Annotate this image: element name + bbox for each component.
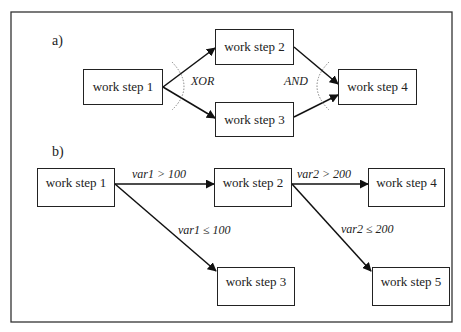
node-b2[interactable]: work step 2 [214, 168, 292, 207]
node-b3[interactable]: work step 3 [217, 267, 295, 306]
condition-b1-b3: var1 ≤ 100 [178, 223, 231, 238]
node-a2[interactable]: work step 2 [215, 29, 294, 65]
node-a3[interactable]: work step 3 [215, 102, 294, 137]
condition-b2-b5: var2 ≤ 200 [341, 222, 394, 237]
node-b4[interactable]: work step 4 [368, 168, 445, 207]
xor-label: XOR [191, 74, 214, 89]
edge-a3-a4 [294, 95, 338, 117]
xor-arc-icon [172, 62, 184, 110]
node-b1[interactable]: work step 1 [37, 168, 115, 207]
edge-a1-a3 [163, 87, 215, 118]
condition-b2-b4: var2 > 200 [297, 167, 351, 182]
part-b-label: b) [52, 144, 64, 160]
node-a1[interactable]: work step 1 [83, 69, 163, 105]
condition-b1-b2: var1 > 100 [132, 167, 186, 182]
and-arc-icon [317, 62, 329, 110]
part-a-label: a) [52, 33, 63, 49]
node-a4[interactable]: work step 4 [338, 69, 417, 105]
and-label: AND [284, 74, 308, 89]
node-b5[interactable]: work step 5 [372, 267, 450, 306]
